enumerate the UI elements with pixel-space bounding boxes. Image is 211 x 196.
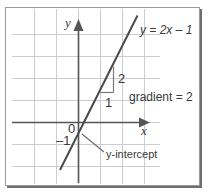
equation-label: y = 2x – 1 [139, 23, 192, 37]
y-intercept-label: y-intercept [106, 148, 157, 160]
rise-label: 2 [118, 71, 125, 86]
coordinate-graph: y x 0 –1 y = 2x – 1 gradient = 2 2 1 y-i… [0, 0, 211, 196]
y-intercept-value-label: –1 [56, 133, 70, 148]
gradient-label: gradient = 2 [129, 90, 193, 104]
x-axis-label: x [140, 123, 147, 138]
graph-figure: y x 0 –1 y = 2x – 1 gradient = 2 2 1 y-i… [0, 0, 211, 196]
y-axis-label: y [63, 15, 71, 30]
run-label: 1 [105, 95, 112, 110]
